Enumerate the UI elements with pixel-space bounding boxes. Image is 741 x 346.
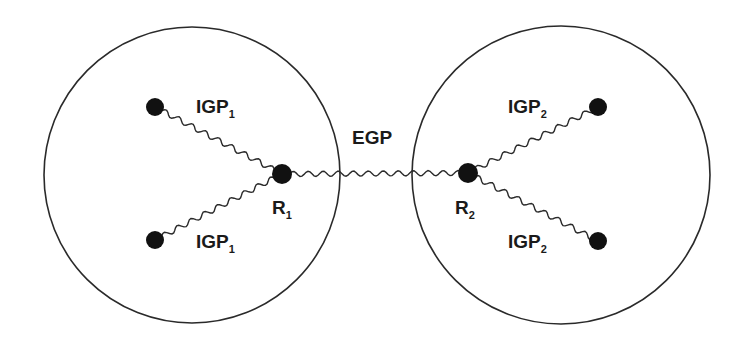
nodes	[146, 98, 607, 250]
link-label: IGP2	[508, 231, 547, 255]
link-egp	[282, 171, 468, 177]
link-label: IGP1	[196, 231, 235, 255]
host-node	[589, 98, 607, 116]
labels: IGP1IGP1EGPIGP2IGP2R1R2	[196, 96, 547, 255]
router-label: R2	[455, 197, 475, 221]
router-node-r1	[272, 164, 292, 184]
link-igp-1	[155, 107, 282, 174]
host-node	[146, 98, 164, 116]
router-label: R1	[272, 197, 292, 221]
host-node	[589, 232, 607, 250]
autonomous-system-2	[412, 26, 710, 324]
router-node-r2	[458, 163, 478, 183]
autonomous-system-1	[44, 27, 340, 323]
routing-diagram: IGP1IGP1EGPIGP2IGP2R1R2	[0, 0, 741, 346]
link-label: EGP	[352, 127, 392, 148]
host-node	[146, 231, 164, 249]
link-label: IGP1	[196, 96, 235, 120]
link-label: IGP2	[508, 96, 547, 120]
